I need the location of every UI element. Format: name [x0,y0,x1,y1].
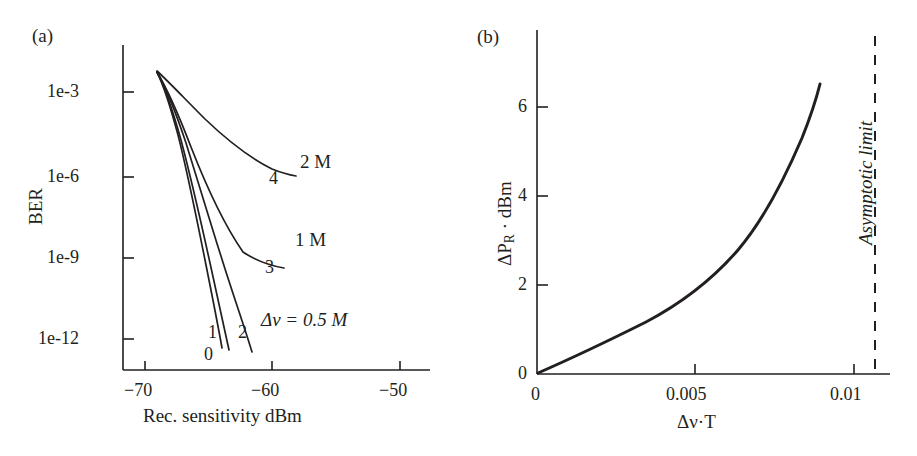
panel-b-x-ticks [695,364,854,374]
panel-b-y-axis-title: ΔPR · dBm [495,181,517,266]
curve-label-4: 4 [269,169,278,187]
annotation-2m: 2 M [300,152,331,171]
panel-b-xtick-001: 0.01 [830,385,862,403]
panel-b-y-ticks [537,107,548,285]
panel-b-y-axis-delta-p: ΔP [494,243,515,266]
curve-label-3: 3 [265,258,274,276]
panel-a-ytick-1e-12: 1e-12 [38,329,79,347]
curve-3 [157,72,284,268]
panel-a-y-axis-title: BER [26,188,45,225]
panel-b-ytick-0: 0 [518,364,527,382]
panel-a-ytick-1e-3: 1e-3 [47,82,79,100]
panel-a-ytick-1e-9: 1e-9 [47,248,79,266]
panel-a-xtick-minus60: −60 [251,381,279,399]
panel-b-xtick-0005: 0.005 [666,385,707,403]
curve-label-2: 2 [238,323,247,341]
panel-b-ytick-4: 4 [518,186,527,204]
panel-b-y-axis-units: · dBm [494,181,515,234]
panel-b-x-axis-title: Δν·T [677,412,716,431]
panel-a-xtick-minus70: −70 [124,381,152,399]
panel-b: (b) 6 4 2 0 0 0.005 0.01 ΔPR · dBm Δν·T … [450,0,917,456]
curve-4 [157,71,296,176]
curve-label-0: 0 [204,345,213,363]
panel-b-xtick-0: 0 [531,385,540,403]
panel-a-xtick-minus50: −50 [379,381,407,399]
figure-container: (a) 1e-3 1e-6 1e-9 1e-12 −70 −60 −50 BER… [0,0,917,456]
panel-a-x-axis-title: Rec. sensitivity dBm [143,406,302,425]
panel-a-ytick-1e-6: 1e-6 [47,167,79,185]
annotation-1m: 1 M [295,230,326,249]
panel-a-y-ticks [123,92,134,339]
panel-b-tag: (b) [477,27,499,46]
panel-b-axes [537,30,890,374]
panel-a-x-ticks [145,361,400,370]
power-penalty-curve [538,84,820,373]
panel-b-ytick-2: 2 [518,275,527,293]
asymptotic-limit-label: Asymptotic limit [856,121,875,245]
curve-label-1: 1 [208,323,217,341]
panel-b-ytick-6: 6 [518,97,527,115]
panel-a: (a) 1e-3 1e-6 1e-9 1e-12 −70 −60 −50 BER… [0,0,460,456]
panel-b-y-axis-subscript: R [502,234,517,243]
panel-a-tag: (a) [32,26,53,45]
annotation-delta-nu: Δν = 0.5 M [261,310,347,329]
curve-0 [157,72,222,348]
